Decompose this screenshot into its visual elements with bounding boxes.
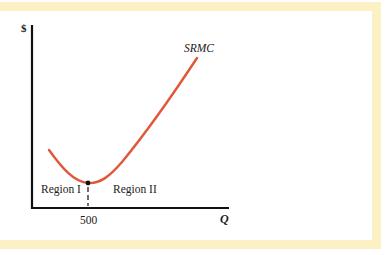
region-label-right: Region II bbox=[113, 183, 157, 196]
y-axis-label: $ bbox=[21, 22, 27, 34]
srmc-chart: $ Q SRMC Region I Region II 500 bbox=[0, 0, 391, 255]
curve-label: SRMC bbox=[184, 42, 214, 54]
minimum-point-marker bbox=[86, 181, 91, 186]
srmc-curve bbox=[49, 58, 197, 183]
region-label-left: Region I bbox=[41, 183, 81, 196]
x-tick-label: 500 bbox=[80, 214, 98, 226]
x-axis-label: Q bbox=[220, 212, 229, 226]
